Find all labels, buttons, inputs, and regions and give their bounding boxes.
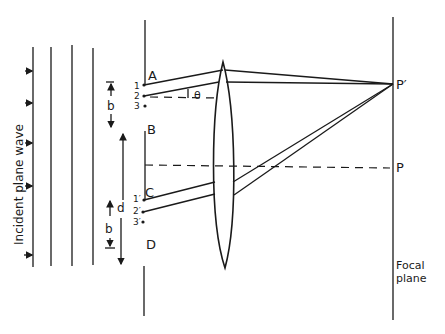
point-3p-label: 3′ bbox=[133, 217, 141, 227]
label-B: B bbox=[147, 122, 156, 137]
theta-label: θ bbox=[194, 89, 201, 102]
slit-screen bbox=[144, 20, 145, 316]
point-2-label: 2 bbox=[134, 91, 140, 101]
b-bottom-label: b bbox=[105, 222, 113, 236]
d-label: d bbox=[117, 201, 125, 215]
point-3-label: 3 bbox=[134, 101, 140, 111]
dimension-d bbox=[121, 134, 123, 264]
label-A: A bbox=[148, 68, 157, 83]
label-D: D bbox=[146, 237, 156, 252]
rays-top bbox=[144, 70, 393, 96]
diagram-canvas: Incident plane wave b d b A B C D 1 2 3 … bbox=[0, 0, 445, 334]
point-1p-label: 1′ bbox=[133, 194, 141, 204]
rays-bottom bbox=[143, 84, 393, 212]
convex-lens bbox=[214, 62, 234, 268]
optical-axis bbox=[145, 165, 390, 168]
incident-wave-label: Incident plane wave bbox=[12, 124, 26, 245]
p-label: P bbox=[396, 160, 404, 175]
focal-label-1: Focal bbox=[396, 259, 425, 272]
wavefronts bbox=[33, 45, 93, 267]
theta-reference-line bbox=[150, 97, 218, 98]
focal-label-2: plane bbox=[396, 272, 427, 285]
point-1-label: 1 bbox=[134, 81, 140, 91]
diagram-svg: Incident plane wave b d b A B C D 1 2 3 … bbox=[0, 0, 445, 334]
b-top-label: b bbox=[107, 99, 115, 113]
point-2p-label: 2′ bbox=[133, 206, 141, 216]
p-prime-label: P′ bbox=[396, 77, 407, 92]
